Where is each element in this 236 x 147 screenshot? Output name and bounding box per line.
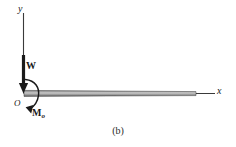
- origin-label: O: [14, 99, 21, 108]
- moment-label-subscript: o: [41, 112, 45, 120]
- beam-body: [24, 90, 196, 96]
- weight-force-label: W: [26, 61, 36, 71]
- x-axis-label: x: [217, 86, 221, 96]
- figure-panel: y x W O Mo (b): [0, 0, 236, 147]
- y-axis-label: y: [18, 4, 22, 14]
- figure-caption: (b): [0, 126, 236, 136]
- moment-label: Mo: [32, 108, 45, 118]
